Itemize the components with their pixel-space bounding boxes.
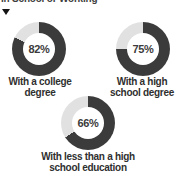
- donut-ring-highschool: 75%: [116, 22, 170, 76]
- donut-caption-highschool: With a high school degree: [106, 76, 176, 98]
- collapse-triangle-icon[interactable]: [2, 9, 10, 15]
- caption-line: With a college: [9, 76, 72, 87]
- donut-ring-less-than-highschool: 66%: [61, 96, 115, 150]
- donut-percent-label: 75%: [116, 22, 170, 76]
- caption-line: With a high: [117, 76, 168, 87]
- caption-line: degree: [25, 87, 56, 98]
- infographic-panel: In School or Working 82% With a college …: [0, 0, 176, 174]
- donut-percent-label: 82%: [12, 22, 66, 76]
- donut-chart-college: 82%: [12, 22, 66, 76]
- caption-line: With less than a high: [41, 151, 135, 162]
- donut-chart-highschool: 75%: [116, 22, 170, 76]
- donut-chart-less-than-highschool: 66%: [61, 96, 115, 150]
- donut-percent-label: 66%: [61, 96, 115, 150]
- donut-caption-college: With a college degree: [2, 76, 78, 98]
- section-title-clipped: In School or Working: [1, 0, 97, 4]
- caption-line: school degree: [110, 87, 174, 98]
- caption-line: school education: [49, 162, 126, 173]
- donut-ring-college: 82%: [12, 22, 66, 76]
- donut-caption-less-than-highschool: With less than a high school education: [18, 151, 158, 173]
